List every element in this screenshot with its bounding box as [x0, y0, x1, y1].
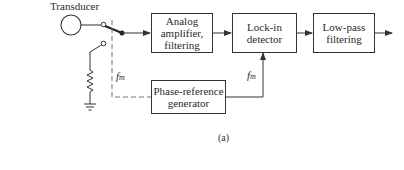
block-text: generator — [153, 97, 223, 109]
block-text: Low-pass — [323, 21, 366, 33]
figure-caption: (a) — [218, 132, 229, 144]
transducer-icon — [61, 15, 81, 35]
lock-in-detector-block: Lock-in detector — [232, 13, 297, 53]
block-text: filtering — [161, 39, 204, 51]
fm-sub: m — [250, 72, 256, 81]
block-text: Analog — [161, 15, 204, 27]
block-text: Lock-in — [247, 21, 282, 33]
block-text: detector — [247, 33, 282, 45]
reference-arrow — [226, 53, 263, 97]
low-pass-filter-block: Low-pass filtering — [313, 13, 375, 53]
fm-sub: m — [119, 73, 125, 82]
switch-blade — [105, 26, 122, 33]
transducer-label: Transducer — [50, 0, 99, 12]
block-text: Phase-reference — [153, 85, 223, 97]
switch-contact-bottom — [101, 41, 106, 46]
phase-reference-generator-block: Phase-reference generator — [151, 80, 226, 114]
block-text: amplifier, — [161, 27, 204, 39]
resistor-wire-top — [90, 45, 102, 70]
analog-amplifier-block: Analog amplifier, filtering — [151, 13, 213, 53]
ground-icon — [84, 104, 96, 110]
block-text: filtering — [323, 33, 366, 45]
fm-label-right: fm — [247, 69, 256, 83]
fm-label-left: fm — [116, 70, 125, 84]
resistor-icon — [87, 70, 93, 92]
